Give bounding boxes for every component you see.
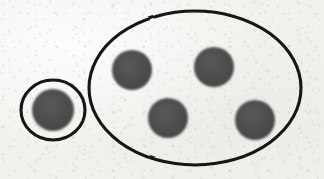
dot-in-small-group[interactable]: [32, 89, 74, 131]
dot-bottom-left-in-large-group[interactable]: [148, 98, 188, 138]
diagram-canvas: 5 1 4 2: [0, 0, 324, 179]
dot-top-left-in-large-group[interactable]: [112, 50, 152, 90]
dot-top-right-in-large-group[interactable]: [194, 47, 234, 87]
large-ellipse-group[interactable]: [89, 11, 301, 165]
group-outlines: [21, 11, 301, 165]
dot-collection: [32, 47, 275, 140]
dot-bottom-right-in-large-group[interactable]: [235, 100, 275, 140]
set-diagram-figure: [0, 0, 324, 179]
